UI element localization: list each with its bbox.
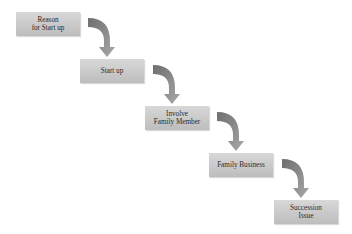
- step-succession-issue: Succession Issue: [274, 200, 338, 224]
- curved-arrow-down-icon: [151, 62, 185, 106]
- step-reason-for-start-up: Reason for Start up: [16, 12, 80, 36]
- step-family-business: Family Business: [209, 153, 273, 177]
- curved-arrow-down-icon: [215, 109, 249, 153]
- curved-arrow-down-icon: [280, 156, 314, 200]
- step-start-up: Start up: [80, 59, 144, 83]
- curved-arrow-down-icon: [86, 15, 120, 59]
- step-involve-family-member: Involve Family Member: [145, 106, 209, 130]
